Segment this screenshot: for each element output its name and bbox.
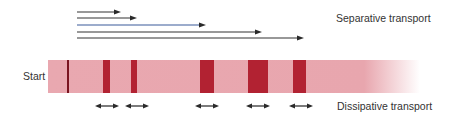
double-arrow-icon <box>95 103 119 108</box>
separative-transport-label: Separative transport <box>336 12 431 24</box>
start-label: Start <box>23 70 45 82</box>
double-arrow-icon <box>289 103 313 108</box>
dissipative-transport-label: Dissipative transport <box>337 100 432 112</box>
double-arrow-icon <box>125 103 149 108</box>
double-arrow-icon <box>246 103 270 108</box>
double-arrow-icon <box>195 103 219 108</box>
